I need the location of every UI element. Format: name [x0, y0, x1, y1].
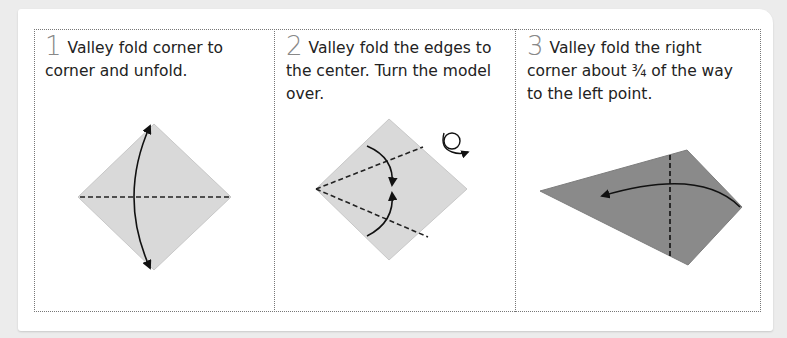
step-3-diagram — [0, 0, 787, 338]
paper-kite-icon — [540, 150, 742, 265]
